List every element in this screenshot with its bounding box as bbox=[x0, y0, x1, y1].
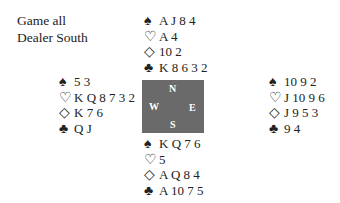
spade-icon: ♠ bbox=[144, 136, 159, 152]
west-diamonds: ◇K 7 6 bbox=[59, 105, 135, 121]
north-diamonds: ◇10 2 bbox=[144, 44, 207, 60]
north-clubs: ♣K 8 6 3 2 bbox=[144, 60, 207, 76]
club-icon: ♣ bbox=[59, 121, 74, 137]
compass-west: W bbox=[149, 101, 159, 112]
spade-icon: ♠ bbox=[59, 74, 74, 90]
compass-table: N W E S bbox=[142, 80, 204, 133]
spade-icon: ♠ bbox=[269, 74, 284, 90]
heart-icon: ♡ bbox=[144, 29, 159, 45]
north-hand: ♠A J 8 4 ♡A 4 ◇10 2 ♣K 8 6 3 2 bbox=[144, 13, 207, 75]
west-hand: ♠5 3 ♡K Q 8 7 3 2 ◇K 7 6 ♣Q J bbox=[59, 74, 135, 136]
south-hand: ♠K Q 7 6 ♡5 ◇A Q 8 4 ♣A 10 7 5 bbox=[144, 136, 203, 198]
east-diamonds: ◇J 9 5 3 bbox=[269, 105, 325, 121]
heart-icon: ♡ bbox=[269, 90, 284, 106]
club-icon: ♣ bbox=[144, 183, 159, 199]
south-spades: ♠K Q 7 6 bbox=[144, 136, 203, 152]
heart-icon: ♡ bbox=[59, 90, 74, 106]
north-spades: ♠A J 8 4 bbox=[144, 13, 207, 29]
diamond-icon: ◇ bbox=[269, 105, 284, 121]
north-hearts: ♡A 4 bbox=[144, 29, 207, 45]
compass-north: N bbox=[169, 83, 176, 94]
east-hearts: ♡J 10 9 6 bbox=[269, 90, 325, 106]
east-hand: ♠10 9 2 ♡J 10 9 6 ◇J 9 5 3 ♣9 4 bbox=[269, 74, 325, 136]
club-icon: ♣ bbox=[269, 121, 284, 137]
east-clubs: ♣9 4 bbox=[269, 121, 325, 137]
spade-icon: ♠ bbox=[144, 13, 159, 29]
heart-icon: ♡ bbox=[144, 152, 159, 168]
west-clubs: ♣Q J bbox=[59, 121, 135, 137]
deal-info: Game all Dealer South bbox=[17, 12, 88, 46]
vulnerability-label: Game all bbox=[17, 12, 88, 29]
dealer-label: Dealer South bbox=[17, 29, 88, 46]
east-spades: ♠10 9 2 bbox=[269, 74, 325, 90]
compass-east: E bbox=[189, 102, 196, 113]
compass-south: S bbox=[170, 119, 176, 130]
diamond-icon: ◇ bbox=[59, 105, 74, 121]
south-diamonds: ◇A Q 8 4 bbox=[144, 167, 203, 183]
club-icon: ♣ bbox=[144, 60, 159, 76]
west-spades: ♠5 3 bbox=[59, 74, 135, 90]
west-hearts: ♡K Q 8 7 3 2 bbox=[59, 90, 135, 106]
south-hearts: ♡5 bbox=[144, 152, 203, 168]
south-clubs: ♣A 10 7 5 bbox=[144, 183, 203, 199]
diamond-icon: ◇ bbox=[144, 44, 159, 60]
diamond-icon: ◇ bbox=[144, 167, 159, 183]
